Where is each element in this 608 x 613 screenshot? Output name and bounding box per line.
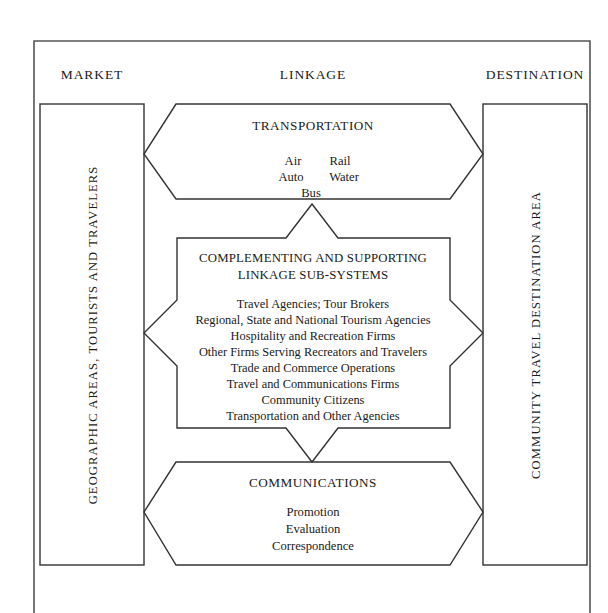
tourism-system-diagram: MARKET LINKAGE DESTINATION GEOGRAPHIC AR… [0, 0, 608, 613]
transportation-mode-auto: Auto [278, 170, 303, 184]
communications-item: Evaluation [286, 522, 341, 536]
linkage-item: Community Citizens [262, 393, 365, 407]
communications-title: COMMUNICATIONS [249, 475, 377, 490]
linkage-subsystems-title-line1: COMPLEMENTING AND SUPPORTING [199, 251, 427, 265]
market-panel-label: GEOGRAPHIC AREAS, TOURISTS AND TRAVELERS [86, 166, 100, 505]
linkage-subsystems-title-line2: LINKAGE SUB-SYSTEMS [238, 268, 389, 282]
transportation-mode-rail: Rail [330, 154, 351, 168]
column-header-market: MARKET [61, 67, 123, 82]
linkage-item: Travel Agencies; Tour Brokers [237, 297, 389, 311]
linkage-item: Transportation and Other Agencies [226, 409, 400, 423]
linkage-item: Travel and Communications Firms [227, 377, 400, 391]
communications-item: Promotion [286, 505, 340, 519]
linkage-item: Other Firms Serving Recreators and Trave… [199, 345, 427, 359]
transportation-title: TRANSPORTATION [252, 118, 374, 133]
transportation-mode-water: Water [329, 170, 360, 184]
linkage-item: Hospitality and Recreation Firms [231, 329, 396, 343]
transportation-mode-air: Air [285, 154, 303, 168]
transportation-mode-bus: Bus [301, 186, 321, 200]
linkage-item: Trade and Commerce Operations [231, 361, 396, 375]
communications-item: Correspondence [272, 539, 354, 553]
column-header-destination: DESTINATION [486, 67, 584, 82]
destination-panel-label: COMMUNITY TRAVEL DESTINATION AREA [529, 191, 543, 479]
column-header-linkage: LINKAGE [280, 67, 346, 82]
linkage-item: Regional, State and National Tourism Age… [196, 313, 431, 327]
diagram-canvas: MARKET LINKAGE DESTINATION GEOGRAPHIC AR… [0, 0, 608, 613]
